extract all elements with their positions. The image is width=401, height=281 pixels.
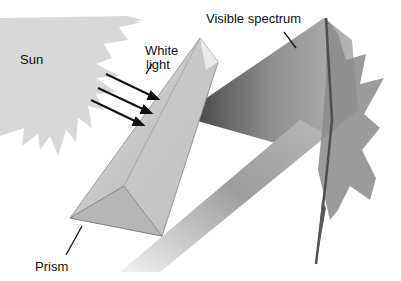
white-light-label-line1: White — [145, 44, 178, 58]
prism-label: Prism — [35, 260, 68, 274]
visible-spectrum-label: Visible spectrum — [206, 12, 301, 26]
sun-shape — [0, 16, 142, 156]
prism-diagram: Sun White light Visible spectrum Prism — [0, 0, 401, 281]
sun-label: Sun — [20, 53, 43, 67]
white-light-label-line2: light — [146, 58, 170, 72]
diagram-canvas — [0, 0, 401, 281]
